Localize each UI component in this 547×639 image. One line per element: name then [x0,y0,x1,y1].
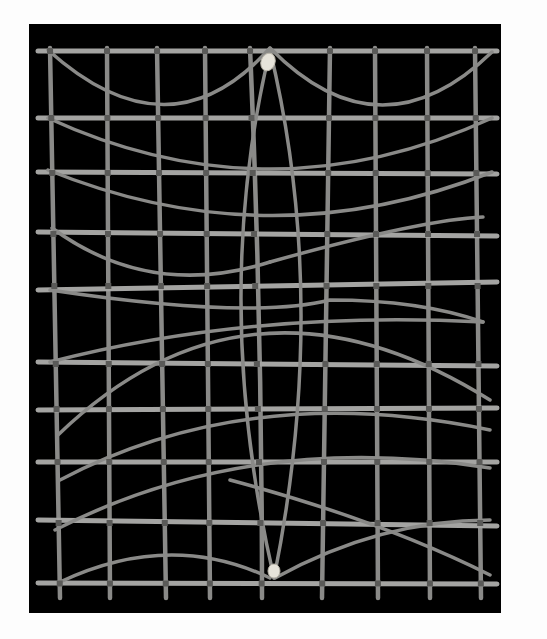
lashing-knot [473,170,479,176]
lashing-knot [161,459,167,465]
lashing-knot [48,115,54,121]
lashing-knot [106,406,112,412]
lashing-knot [427,581,433,587]
vertical-stick [375,48,378,598]
lashing-knot [157,231,163,237]
lashing-knot [426,459,432,465]
lashing-knot [324,231,330,237]
lashing-knot [250,170,256,176]
lashing-knot [154,48,160,54]
lashing-knot [255,406,261,412]
lashing-knot [203,170,209,176]
lashing-knot [254,361,260,367]
lashing-knot [160,406,166,412]
lashing-knot [204,231,210,237]
lashing-knot [374,361,380,367]
lashing-knot [425,283,431,289]
lashing-knot [207,581,213,587]
lashing-knot [206,520,212,526]
lashing-knot [375,520,381,526]
lashing-knot [256,459,262,465]
lashing-knot [155,115,161,121]
lashing-knot [424,115,430,121]
lashing-knot [477,459,483,465]
lashing-knot [55,459,61,465]
lashing-knot [205,361,211,367]
lashing-knot [205,406,211,412]
lashing-knot [374,459,380,465]
lashing-knot [204,283,210,289]
lashing-knot [477,520,483,526]
vertical-stick [107,48,110,598]
lashing-knot [156,170,162,176]
lashing-knot [49,170,55,176]
lashing-knot [322,406,328,412]
lashing-knot [321,459,327,465]
vertical-stick [427,48,430,598]
lashing-knot [105,170,111,176]
lashing-knot [475,283,481,289]
lashing-knot [159,361,165,367]
shell-bottom [268,564,280,578]
lashing-knot [373,231,379,237]
lashing-knot [106,459,112,465]
lashing-knot [322,361,328,367]
lashing-knot [473,115,479,121]
lashing-knot [326,115,332,121]
lashing-knot [472,48,478,54]
lashing-knot [372,48,378,54]
lashing-knot [202,48,208,54]
lashing-knot [476,406,482,412]
lashing-knot [373,283,379,289]
lashing-knot [372,115,378,121]
lashing-knot [424,48,430,54]
lashing-knot [249,115,255,121]
lashing-knot [163,581,169,587]
lashing-knot [247,48,253,54]
lashing-knot [51,283,57,289]
lashing-knot [203,115,209,121]
lashing-knot [206,459,212,465]
lashing-knot [426,406,432,412]
lashing-knot [104,115,110,121]
lashing-knot [478,581,484,587]
lashing-knot [54,406,60,412]
lashing-knot [251,231,257,237]
lashing-knot [57,581,63,587]
lashing-knot [56,520,62,526]
lashing-knot [425,170,431,176]
lashing-knot [327,48,333,54]
lashing-knot [259,581,265,587]
lashing-knot [426,361,432,367]
lashing-knot [105,283,111,289]
lashing-knot [158,283,164,289]
lashing-knot [374,406,380,412]
lashing-knot [325,170,331,176]
lashing-knot [162,520,168,526]
lashing-knot [252,283,258,289]
stick-chart-photo [0,0,547,639]
lashing-knot [104,48,110,54]
lashing-knot [319,581,325,587]
lashing-knot [324,283,330,289]
lashing-knot [474,231,480,237]
lashing-knot [106,361,112,367]
lashing-knot [105,231,111,237]
lashing-knot [107,581,113,587]
lashing-knot [47,48,53,54]
lashing-knot [425,231,431,237]
lashing-knot [373,170,379,176]
lashing-knot [53,361,59,367]
lashing-knot [50,231,56,237]
lashing-knot [257,520,263,526]
lashing-knot [475,361,481,367]
lashing-knot [375,581,381,587]
lashing-knot [427,520,433,526]
lashing-knot [320,520,326,526]
lashing-knot [107,520,113,526]
